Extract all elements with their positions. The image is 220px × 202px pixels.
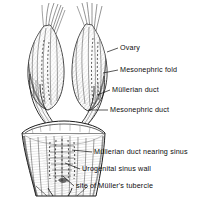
label-urogenital-sinus-wall: Urogenital sinus wall [82,165,151,173]
left-ovary [24,22,68,114]
right-ovary [68,20,112,114]
label-mesonephric-fold: Mesonephric fold [120,66,177,74]
label-site-of-mullers-tubercle: site of Müller's tubercle [76,182,153,190]
label-mullerian-duct-nearing-sinus: Müllerian duct nearing sinus [94,148,188,156]
label-ovary: Ovary [120,44,140,52]
anatomical-figure: Ovary Mesonephric fold Müllerian duct Me… [0,0,220,202]
leader-ovary [107,48,118,52]
label-mesonephric-duct: Mesonephric duct [110,106,169,114]
label-mullerian-duct: Müllerian duct [112,86,159,94]
